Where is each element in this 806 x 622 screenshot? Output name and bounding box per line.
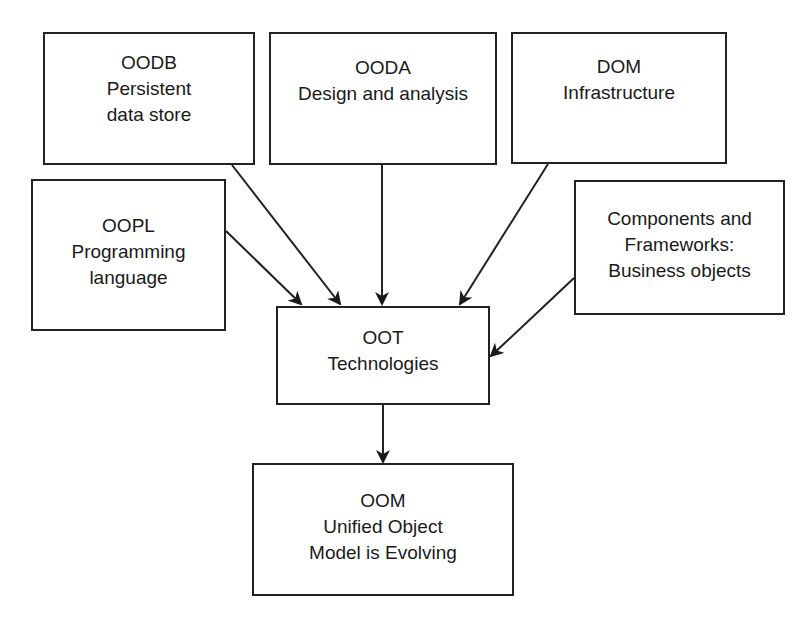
node-ooda-line1: Design and analysis: [298, 81, 468, 107]
node-components-line3: Business objects: [608, 258, 751, 284]
arrow-dom-to-oot: [460, 164, 548, 304]
node-dom-line1: Infrastructure: [563, 80, 675, 106]
node-dom: DOM Infrastructure: [511, 32, 727, 164]
node-ooda: OODA Design and analysis: [269, 32, 497, 165]
node-oopl: OOPL Programming language: [31, 179, 226, 331]
node-oodb-line1: Persistent: [107, 76, 191, 102]
node-oom: OOM Unified Object Model is Evolving: [252, 463, 514, 596]
node-oopl-line1: Programming: [71, 239, 185, 265]
node-dom-title: DOM: [597, 54, 641, 80]
node-oopl-title: OOPL: [102, 213, 155, 239]
node-oodb-line2: data store: [107, 102, 192, 128]
node-oodb-title: OODB: [121, 50, 177, 76]
node-components-line1: Components and: [607, 206, 752, 232]
arrow-oopl-to-oot: [226, 231, 301, 304]
node-oom-title: OOM: [360, 488, 405, 514]
arrow-oodb-to-oot: [232, 165, 340, 304]
arrow-components-to-oot: [491, 278, 574, 356]
node-oom-line1: Unified Object: [323, 514, 442, 540]
node-oot-line1: Technologies: [328, 351, 439, 377]
node-ooda-title: OODA: [355, 55, 411, 81]
node-components-line2: Frameworks:: [625, 232, 735, 258]
node-oot-title: OOT: [362, 325, 403, 351]
node-oopl-line2: language: [89, 265, 167, 291]
node-oom-line2: Model is Evolving: [309, 540, 457, 566]
node-oot: OOT Technologies: [276, 306, 490, 405]
node-oodb: OODB Persistent data store: [43, 32, 255, 165]
node-components: Components and Frameworks: Business obje…: [574, 180, 785, 315]
